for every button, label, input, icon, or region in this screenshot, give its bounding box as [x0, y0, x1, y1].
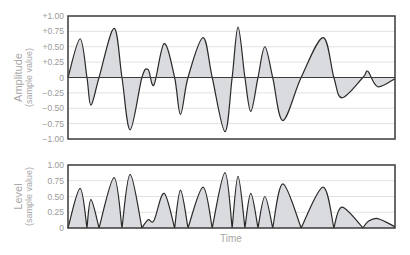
- y-tick-label: 0.25: [47, 207, 64, 217]
- level-chart: 1.000.750.500.250 Level (sample value) T…: [12, 160, 395, 244]
- level-y-ticks: 1.000.750.500.250: [47, 160, 64, 233]
- y-tick-label: 0: [59, 223, 64, 233]
- amplitude-y-ticks: +1.00+0.75+0.50+0.250−0.25−0.50−0.75−1.0…: [42, 11, 64, 144]
- y-tick-label: +0.75: [42, 26, 64, 36]
- level-y-axis-title: Level (sample value): [12, 167, 34, 226]
- y-tick-label: +0.50: [42, 42, 64, 52]
- amplitude-ylabel: Amplitude: [12, 53, 24, 102]
- y-tick-label: −1.00: [42, 134, 64, 144]
- amplitude-ylabel-sub: (sample value): [24, 48, 34, 107]
- level-ylabel-sub: (sample value): [24, 167, 34, 226]
- y-tick-label: −0.75: [42, 119, 64, 129]
- y-tick-label: +0.25: [42, 57, 64, 67]
- amplitude-y-axis-title: Amplitude (sample value): [12, 48, 34, 107]
- y-tick-label: −0.50: [42, 103, 64, 113]
- time-xlabel: Time: [220, 233, 242, 244]
- y-tick-label: 0: [59, 73, 64, 83]
- y-tick-label: −0.25: [42, 88, 64, 98]
- y-tick-label: 0.75: [47, 176, 64, 186]
- waveform-figure: +1.00+0.75+0.50+0.250−0.25−0.50−0.75−1.0…: [0, 0, 410, 255]
- level-ylabel: Level: [12, 183, 24, 209]
- amplitude-waveform: [68, 27, 395, 132]
- y-tick-label: 0.50: [47, 192, 64, 202]
- amplitude-chart: +1.00+0.75+0.50+0.250−0.25−0.50−0.75−1.0…: [12, 11, 395, 144]
- y-tick-label: 1.00: [47, 160, 64, 170]
- y-tick-label: +1.00: [42, 11, 64, 21]
